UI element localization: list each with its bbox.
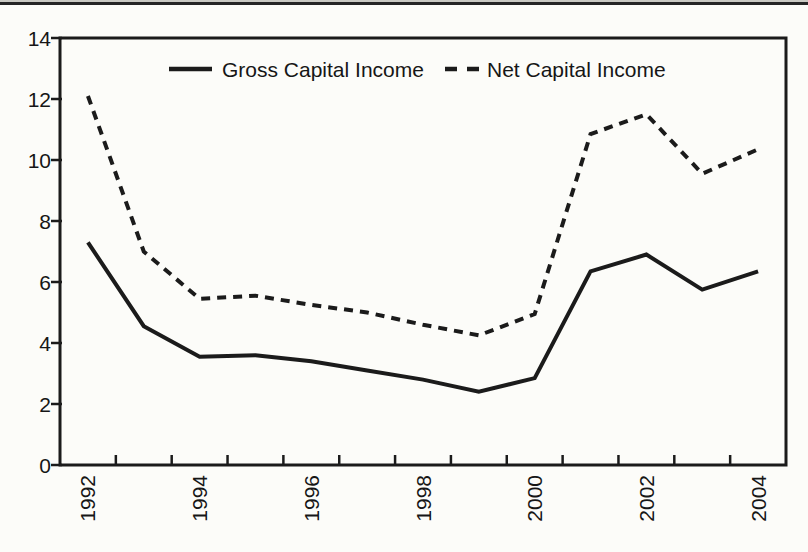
y-axis-tick-label: 2 [39, 393, 51, 416]
x-axis-label-group: 2004 [747, 475, 770, 522]
y-axis-tick-label: 12 [28, 88, 51, 111]
x-axis-label-group: 1992 [76, 475, 99, 522]
x-axis-tick-label: 2002 [635, 475, 658, 522]
net-capital-income-line [88, 96, 758, 335]
y-axis-tick-label: 6 [39, 271, 51, 294]
x-axis-label-group: 2000 [523, 475, 546, 522]
x-axis-tick-label: 2004 [747, 475, 770, 522]
x-axis-label-group: 1998 [412, 475, 435, 522]
x-axis-tick-label: 1998 [412, 475, 435, 522]
y-axis-tick-label: 8 [39, 210, 51, 233]
x-axis-tick-label: 1994 [188, 475, 211, 522]
x-axis-label-group: 1996 [300, 475, 323, 522]
capital-income-line-chart: 024681012141992199419961998200020022004G… [0, 0, 808, 552]
y-axis-tick-label: 0 [39, 454, 51, 477]
y-axis-tick-label: 14 [28, 27, 52, 50]
x-axis-tick-label: 1992 [76, 475, 99, 522]
legend-label-gross-capital-income: Gross Capital Income [222, 58, 424, 81]
page: 024681012141992199419961998200020022004G… [0, 0, 808, 552]
x-axis-label-group: 1994 [188, 475, 211, 522]
legend: Gross Capital IncomeNet Capital Income [169, 58, 666, 81]
x-axis-tick-label: 2000 [523, 475, 546, 522]
x-axis-label-group: 2002 [635, 475, 658, 522]
y-axis-tick-label: 4 [39, 332, 51, 355]
y-axis-tick-label: 10 [28, 149, 51, 172]
gross-capital-income-line [88, 242, 758, 391]
plot-border [60, 38, 786, 465]
legend-label-net-capital-income: Net Capital Income [487, 58, 666, 81]
x-axis-tick-label: 1996 [300, 475, 323, 522]
